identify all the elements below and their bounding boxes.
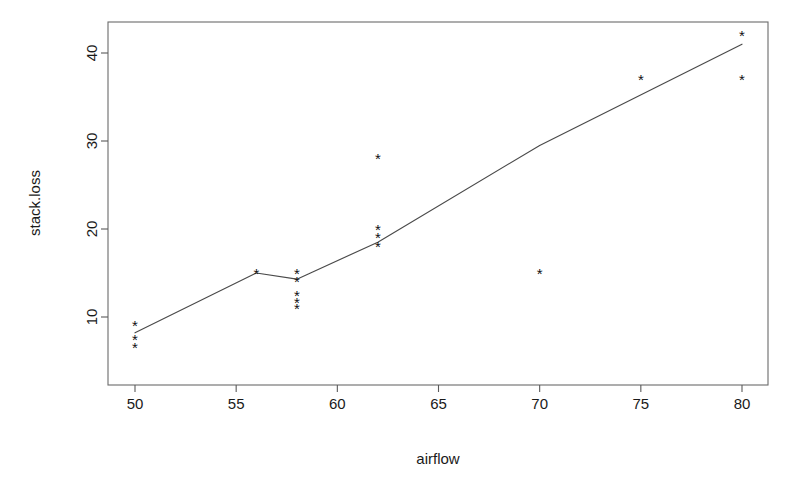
chart-container: 50556065707580 10203040 ****************…: [0, 0, 789, 484]
data-point: *: [294, 300, 300, 317]
y-tick-label-40: 40: [83, 45, 100, 62]
data-point: *: [739, 27, 745, 44]
x-tick-label-70: 70: [531, 395, 548, 412]
data-point: *: [253, 265, 259, 282]
scatter-plot-canvas: 50556065707580 10203040 ****************…: [0, 0, 789, 484]
y-tick-label-10: 10: [83, 309, 100, 326]
data-point: *: [638, 71, 644, 88]
plot-background: [0, 0, 789, 484]
data-point: *: [375, 150, 381, 167]
x-tick-label-65: 65: [430, 395, 447, 412]
y-axis-title: stack.loss: [26, 170, 43, 236]
y-tick-label-20: 20: [83, 221, 100, 238]
x-tick-label-75: 75: [632, 395, 649, 412]
x-tick-label-50: 50: [127, 395, 144, 412]
data-point: *: [739, 71, 745, 88]
data-point: *: [537, 265, 543, 282]
x-tick-label-60: 60: [329, 395, 346, 412]
x-axis-title: airflow: [416, 450, 460, 467]
x-tick-label-80: 80: [734, 395, 751, 412]
y-tick-label-30: 30: [83, 133, 100, 150]
data-point: *: [132, 339, 138, 356]
data-point: *: [375, 238, 381, 255]
x-tick-label-55: 55: [228, 395, 245, 412]
